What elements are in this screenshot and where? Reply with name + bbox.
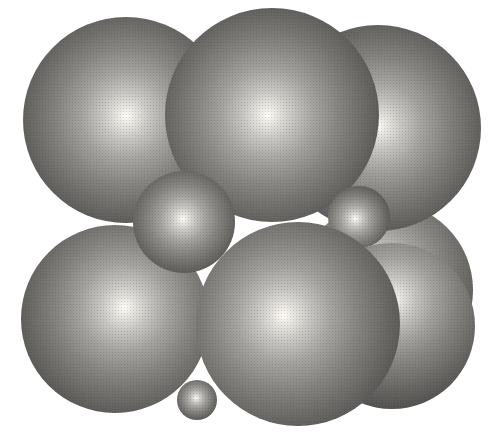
sphere-packing-figure (0, 0, 503, 443)
middle-left-small-sphere (133, 171, 235, 273)
bottom-center-large-sphere (196, 222, 400, 426)
bottom-tiny-sphere (177, 380, 217, 420)
